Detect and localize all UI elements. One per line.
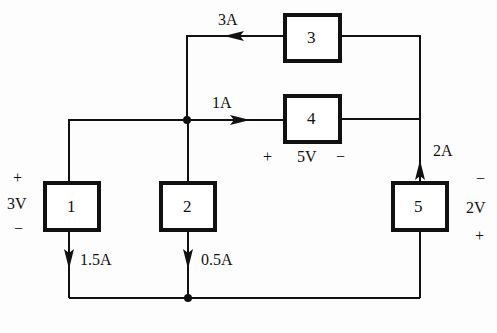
wire-top-left xyxy=(187,36,283,120)
element-5-plus: + xyxy=(475,228,484,244)
element-5-minus: − xyxy=(476,171,485,187)
wire-middle-left xyxy=(69,120,283,181)
element-1-label: 1 xyxy=(67,198,76,215)
element-5-label: 5 xyxy=(414,198,423,215)
element-4-voltage: 5V xyxy=(297,149,317,165)
element-3-label: 3 xyxy=(307,29,316,46)
element-1-voltage: 3V xyxy=(7,196,27,212)
element-1-minus: − xyxy=(14,221,23,237)
node-bottom xyxy=(184,294,192,302)
circuit-diagram: 3 4 1 2 5 3A 1A 1.5A 0.5A 2A + 5V − + 3V… xyxy=(0,0,497,333)
current-5-label: 2A xyxy=(433,143,453,159)
element-1-plus: + xyxy=(13,170,22,186)
wire-top-right xyxy=(341,36,420,181)
node-top xyxy=(183,116,191,124)
element-4-plus: + xyxy=(263,149,272,165)
element-4-label: 4 xyxy=(307,110,316,127)
current-2-label: 0.5A xyxy=(201,252,233,268)
element-5-voltage: 2V xyxy=(466,200,486,216)
current-4-label: 1A xyxy=(212,95,232,111)
element-4-minus: − xyxy=(336,149,345,165)
element-2-label: 2 xyxy=(183,198,192,215)
circuit-wires xyxy=(0,0,497,333)
current-3-label: 3A xyxy=(218,12,238,28)
current-1-label: 1.5A xyxy=(80,252,112,268)
